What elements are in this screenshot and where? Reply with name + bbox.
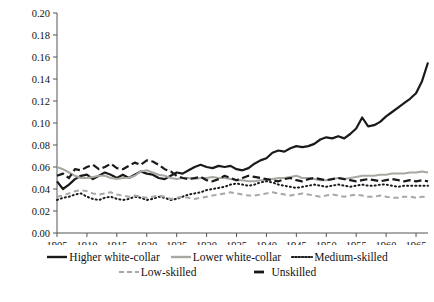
legend-label: Lower white-collar bbox=[193, 251, 281, 263]
series-line-higher-white-collar bbox=[57, 63, 428, 190]
legend-swatch-dash-dark bbox=[248, 267, 270, 277]
y-tick-label: 0.20 bbox=[32, 8, 50, 19]
x-tick-label: 1955 bbox=[346, 240, 367, 245]
legend-swatch-dotted-dark bbox=[291, 252, 313, 262]
y-tick-label: 0.00 bbox=[32, 228, 50, 239]
legend-label: Unskilled bbox=[271, 266, 316, 278]
chart-plot-area: 0.200.180.160.140.120.100.080.060.040.02… bbox=[0, 0, 434, 245]
x-tick-label: 1965 bbox=[406, 240, 427, 245]
x-tick-label: 1930 bbox=[196, 240, 217, 245]
legend-item-medium-skilled[interactable]: Medium-skilled bbox=[291, 251, 387, 263]
y-tick-label: 0.18 bbox=[32, 30, 50, 41]
legend-row: Low-skilledUnskilled bbox=[118, 266, 316, 278]
x-tick-label: 1925 bbox=[166, 240, 187, 245]
legend-item-unskilled[interactable]: Unskilled bbox=[248, 266, 316, 278]
x-tick-label: 1915 bbox=[106, 240, 127, 245]
y-tick-label: 0.16 bbox=[32, 52, 50, 63]
x-tick-label: 1945 bbox=[286, 240, 307, 245]
legend-row: Higher white-collarLower white-collarMed… bbox=[46, 251, 387, 263]
y-tick-label: 0.06 bbox=[32, 162, 50, 173]
legend-swatch-dashed-gray bbox=[118, 267, 140, 277]
legend-item-low-skilled[interactable]: Low-skilled bbox=[118, 266, 197, 278]
x-tick-label: 1960 bbox=[376, 240, 397, 245]
y-tick-label: 0.12 bbox=[32, 96, 50, 107]
x-tick-label: 1905 bbox=[47, 240, 68, 245]
legend-swatch-solid-dark bbox=[46, 252, 68, 262]
x-tick-label: 1935 bbox=[226, 240, 247, 245]
legend-label: Low-skilled bbox=[141, 266, 197, 278]
legend-label: Higher white-collar bbox=[69, 251, 159, 263]
y-tick-label: 0.14 bbox=[32, 74, 51, 85]
legend-item-lower-white-collar[interactable]: Lower white-collar bbox=[170, 251, 281, 263]
x-tick-label: 1940 bbox=[256, 240, 277, 245]
y-tick-label: 0.02 bbox=[32, 206, 50, 217]
x-tick-label: 1950 bbox=[316, 240, 337, 245]
legend-label: Medium-skilled bbox=[314, 251, 387, 263]
x-tick-label: 1910 bbox=[76, 240, 97, 245]
legend-item-higher-white-collar[interactable]: Higher white-collar bbox=[46, 251, 159, 263]
line-chart: 0.200.180.160.140.120.100.080.060.040.02… bbox=[0, 0, 434, 245]
figure: 0.200.180.160.140.120.100.080.060.040.02… bbox=[0, 0, 434, 302]
legend-swatch-solid-gray bbox=[170, 252, 192, 262]
y-tick-label: 0.04 bbox=[32, 184, 51, 195]
y-tick-label: 0.10 bbox=[32, 118, 50, 129]
y-tick-label: 0.08 bbox=[32, 140, 50, 151]
x-tick-label: 1920 bbox=[136, 240, 157, 245]
chart-legend: Higher white-collarLower white-collarMed… bbox=[0, 246, 434, 302]
